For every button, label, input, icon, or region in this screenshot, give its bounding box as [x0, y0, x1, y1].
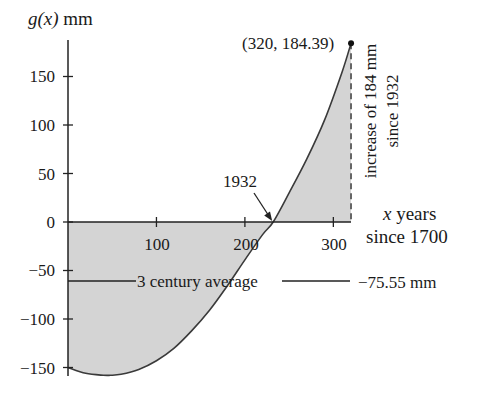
y-tick-label: −150 — [5, 360, 55, 377]
x-tick-label: 300 — [321, 236, 347, 253]
y-tick-label: 50 — [5, 166, 55, 183]
endpoint-label: (320, 184.39) — [242, 35, 334, 52]
endpoint-marker — [348, 40, 354, 46]
average-label: 3 century average — [137, 273, 258, 290]
increase-label-line1: increase of 184 mm — [361, 26, 381, 196]
y-axis-label-unit: mm — [63, 8, 93, 29]
x-axis-label-var: x — [383, 203, 391, 224]
increase-label-line2: since 1932 — [383, 26, 403, 196]
x-tick-label: 100 — [144, 236, 170, 253]
y-axis-label: g(x) mm — [28, 9, 93, 28]
arrowhead-icon — [264, 212, 272, 221]
x-axis-label-unit: years — [396, 203, 436, 224]
y-tick-label: 100 — [5, 117, 55, 134]
y-tick-label: −100 — [5, 311, 55, 328]
x-axis-label-line1: x years — [383, 204, 436, 223]
y-tick-label: −50 — [5, 262, 55, 279]
average-value-label: −75.55 mm — [358, 274, 437, 291]
y-tick-label: 0 — [5, 214, 55, 231]
shaded-area — [68, 43, 351, 375]
chart-canvas — [0, 0, 477, 398]
zero-crossing-label: 1932 — [223, 173, 257, 190]
x-axis-label-line2: since 1700 — [366, 227, 448, 246]
y-axis-label-var: g(x) — [28, 8, 59, 29]
y-tick-label: 150 — [5, 68, 55, 85]
x-tick-label: 200 — [233, 236, 259, 253]
